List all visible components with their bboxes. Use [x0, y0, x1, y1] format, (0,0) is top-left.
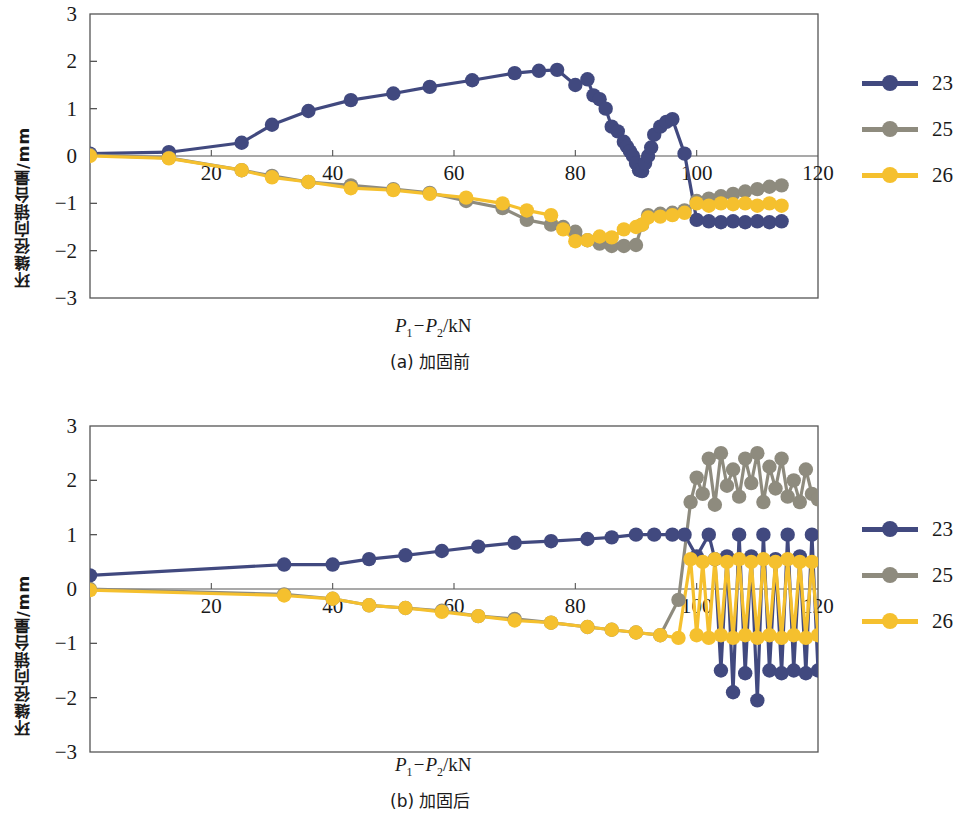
- figure-b-xlabel-p1: P: [395, 754, 407, 775]
- svg-text:1: 1: [67, 97, 78, 121]
- legend-line-23: [862, 527, 918, 532]
- figure-b-y-axis-label: 环缝径向错台量/mm: [12, 456, 36, 736]
- legend-label-25: 25: [932, 117, 953, 142]
- legend-line-23: [862, 81, 918, 86]
- legend-line-26: [862, 619, 918, 624]
- legend-item-23[interactable]: 23: [862, 60, 953, 106]
- legend-marker-26: [882, 613, 898, 629]
- svg-text:20: 20: [201, 594, 222, 618]
- legend-marker-26: [882, 167, 898, 183]
- svg-text:−3: −3: [55, 286, 77, 310]
- figure-b-xlabel-mid: −P: [413, 754, 437, 775]
- legend-line-26: [862, 173, 918, 178]
- svg-text:3: 3: [67, 2, 78, 26]
- figure-a-xlabel-unit: /kN: [443, 315, 472, 336]
- svg-text:0: 0: [67, 144, 78, 168]
- figure-a-container: 环缝径向错台量/mm −3−2−1012320406080100120 P1−P…: [0, 0, 966, 400]
- legend-item-26[interactable]: 26: [862, 598, 953, 644]
- svg-text:1: 1: [67, 523, 78, 547]
- svg-text:−3: −3: [55, 740, 77, 764]
- legend-marker-25: [882, 121, 898, 137]
- figure-b-xlabel-unit: /kN: [443, 754, 472, 775]
- svg-text:120: 120: [802, 161, 834, 185]
- figure-a-x-axis-label: P1−P2/kN: [395, 315, 472, 341]
- legend-item-26[interactable]: 26: [862, 152, 953, 198]
- figure-a-legend: 23 25 26: [862, 60, 953, 198]
- svg-text:80: 80: [565, 161, 586, 185]
- legend-label-23: 23: [932, 71, 953, 96]
- legend-line-25: [862, 127, 918, 132]
- legend-label-25: 25: [932, 563, 953, 588]
- figure-a-xlabel-p1: P: [395, 315, 407, 336]
- svg-text:60: 60: [444, 161, 465, 185]
- figure-a-caption: (a) 加固前: [390, 348, 470, 373]
- legend-label-23: 23: [932, 517, 953, 542]
- legend-marker-23: [882, 521, 898, 537]
- legend-marker-25: [882, 567, 898, 583]
- svg-text:0: 0: [67, 577, 78, 601]
- figure-b-legend: 23 25 26: [862, 506, 953, 644]
- svg-text:−2: −2: [55, 686, 77, 710]
- svg-text:40: 40: [322, 161, 343, 185]
- legend-line-25: [862, 573, 918, 578]
- svg-text:−1: −1: [55, 631, 77, 655]
- figure-b-caption: (b) 加固后: [390, 787, 470, 812]
- figure-b-plot: −3−2−1012320406080100120: [40, 408, 880, 768]
- svg-text:−2: −2: [55, 239, 77, 263]
- svg-text:2: 2: [67, 49, 78, 73]
- figure-b-container: 环缝径向错台量/mm −3−2−1012320406080100120 P1−P…: [0, 396, 966, 822]
- figure-a-plot: −3−2−1012320406080100120: [40, 2, 880, 312]
- svg-text:−1: −1: [55, 191, 77, 215]
- legend-item-25[interactable]: 25: [862, 106, 953, 152]
- svg-text:2: 2: [67, 468, 78, 492]
- figure-a-y-axis-label: 环缝径向错台量/mm: [12, 36, 36, 288]
- legend-item-23[interactable]: 23: [862, 506, 953, 552]
- svg-text:3: 3: [67, 414, 78, 438]
- svg-text:80: 80: [565, 594, 586, 618]
- figure-b-x-axis-label: P1−P2/kN: [395, 754, 472, 780]
- legend-marker-23: [882, 75, 898, 91]
- legend-label-26: 26: [932, 609, 953, 634]
- legend-label-26: 26: [932, 163, 953, 188]
- legend-item-25[interactable]: 25: [862, 552, 953, 598]
- figure-a-xlabel-mid: −P: [413, 315, 437, 336]
